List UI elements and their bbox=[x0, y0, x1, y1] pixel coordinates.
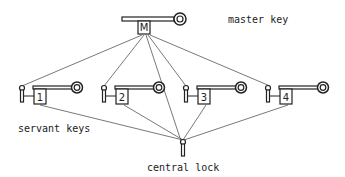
master-key-bow-inner bbox=[177, 16, 183, 22]
line-master-to-central-lock bbox=[146, 35, 183, 147]
line-master-to-lock-4 bbox=[150, 35, 270, 86]
master-key-system-diagram: M master key 1234 central lock servant k… bbox=[0, 0, 345, 177]
master-key: M bbox=[122, 13, 186, 34]
lock-3-body bbox=[185, 90, 188, 102]
servant-key-unit-2: 2 bbox=[102, 82, 165, 104]
servant-key-3-tag: 3 bbox=[201, 92, 207, 103]
line-key-2-to-central bbox=[124, 105, 183, 140]
servant-key-unit-1: 1 bbox=[20, 82, 83, 104]
servant-key-1-bow-inner bbox=[74, 85, 80, 91]
lock-2-body bbox=[103, 90, 106, 102]
central-lock bbox=[181, 140, 186, 157]
servant-key-2-bow-inner bbox=[156, 85, 162, 91]
central-lock-body bbox=[182, 144, 185, 156]
servant-key-3-bow-inner bbox=[238, 85, 244, 91]
central-lock-label: central lock bbox=[147, 162, 219, 173]
lock-4-body bbox=[267, 90, 270, 102]
servant-key-4-tag: 4 bbox=[283, 92, 289, 103]
servant-key-unit-3: 3 bbox=[184, 82, 247, 104]
line-key-3-to-central bbox=[183, 105, 206, 140]
line-key-4-to-central bbox=[184, 105, 288, 140]
servant-keys-label: servant keys bbox=[18, 123, 90, 134]
servant-key-1-tag: 1 bbox=[37, 92, 43, 103]
servant-key-4-bow-inner bbox=[320, 85, 326, 91]
servant-key-unit-4: 4 bbox=[266, 82, 329, 104]
lock-1-body bbox=[21, 90, 24, 102]
master-key-label: master key bbox=[228, 14, 288, 25]
master-key-shaft bbox=[122, 17, 174, 21]
servant-key-2-tag: 2 bbox=[119, 92, 125, 103]
master-key-tag: M bbox=[140, 22, 149, 33]
